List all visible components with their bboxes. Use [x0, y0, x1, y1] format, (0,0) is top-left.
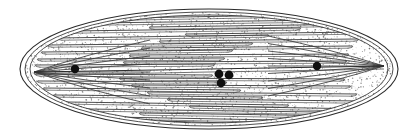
diatom-illustration-canvas: [0, 0, 416, 140]
nodule-center-upper-left: [215, 70, 224, 79]
diatom-figure: Pennate diatom valve, stippled line draw…: [0, 0, 416, 140]
nodule-center-upper-right: [225, 71, 234, 80]
nodule-right: [313, 62, 321, 70]
nodule-left: [71, 65, 79, 73]
nodule-center-lower: [217, 79, 226, 88]
